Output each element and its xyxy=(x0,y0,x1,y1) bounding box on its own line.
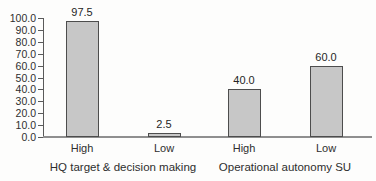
y-tick-mark xyxy=(38,101,43,102)
bar-value-label: 60.0 xyxy=(296,51,356,64)
category-label: High xyxy=(214,142,274,155)
category-label: Low xyxy=(134,142,194,155)
category-label: High xyxy=(52,142,112,155)
y-tick-mark xyxy=(38,42,43,43)
y-tick-label: 100.0 xyxy=(0,12,36,24)
bar-low-3 xyxy=(310,66,343,137)
bar-value-label: 2.5 xyxy=(134,118,194,131)
y-tick-mark xyxy=(38,137,43,138)
group-label-hq-target: HQ target & decision making xyxy=(50,160,196,174)
bar-chart-figure: 0.010.020.030.040.050.060.070.080.090.01… xyxy=(0,0,376,181)
y-tick-mark xyxy=(38,78,43,79)
bar-high-0 xyxy=(66,21,99,137)
y-tick-mark xyxy=(38,54,43,55)
y-tick-label: 0.0 xyxy=(0,131,36,143)
y-tick-mark xyxy=(38,113,43,114)
y-tick-mark xyxy=(38,30,43,31)
y-axis-line xyxy=(43,18,44,137)
bar-value-label: 97.5 xyxy=(52,6,112,19)
y-tick-label: 20.0 xyxy=(0,107,36,119)
y-tick-label: 70.0 xyxy=(0,48,36,60)
y-tick-label: 50.0 xyxy=(0,72,36,84)
y-tick-label: 10.0 xyxy=(0,119,36,131)
y-tick-mark xyxy=(38,66,43,67)
group-label-operational-autonomy: Operational autonomy SU xyxy=(219,160,351,174)
y-tick-label: 60.0 xyxy=(0,60,36,72)
bar-low-1 xyxy=(148,133,181,137)
y-tick-label: 90.0 xyxy=(0,24,36,36)
category-label: Low xyxy=(296,142,356,155)
y-tick-mark xyxy=(38,89,43,90)
bar-high-2 xyxy=(228,89,261,137)
y-tick-mark xyxy=(38,18,43,19)
y-tick-label: 30.0 xyxy=(0,95,36,107)
bar-value-label: 40.0 xyxy=(214,74,274,87)
y-tick-label: 40.0 xyxy=(0,83,36,95)
y-tick-mark xyxy=(38,125,43,126)
y-tick-label: 80.0 xyxy=(0,36,36,48)
